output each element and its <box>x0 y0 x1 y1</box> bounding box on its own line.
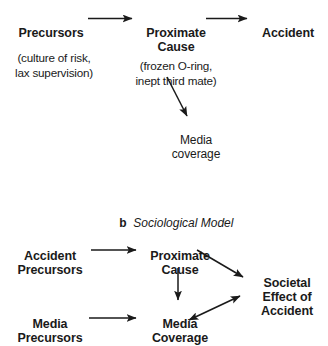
node-accident: Accident <box>250 12 326 40</box>
figure-canvas: Precursors (culture of risk, lax supervi… <box>0 0 328 346</box>
panel-b-caption-text: Sociological Model <box>133 216 233 230</box>
node-media-coverage-a: Media coverage <box>155 121 237 161</box>
node-proximate-cause-b: Proximate Cause <box>140 235 220 277</box>
node-societal-effect-label: Societal Effect of Accident <box>261 276 313 318</box>
node-societal-effect: Societal Effect of Accident <box>248 262 326 318</box>
node-media-coverage-b: Media Coverage <box>138 303 222 345</box>
node-precursors-detail: (culture of risk, lax supervision) <box>0 36 108 81</box>
node-accident-label: Accident <box>262 26 314 40</box>
node-proximate-cause-detail-text: (frozen O-ring, inept third mate) <box>135 59 216 87</box>
node-proximate-cause-detail: (frozen O-ring, inept third mate) <box>118 44 234 89</box>
node-media-precursors: Media Precursors <box>8 303 92 345</box>
node-media-coverage-a-label: Media coverage <box>172 133 221 160</box>
node-media-precursors-label: Media Precursors <box>17 317 82 345</box>
node-accident-precursors: Accident Precursors <box>8 235 92 277</box>
node-proximate-cause-b-label: Proximate Cause <box>150 249 210 277</box>
node-media-coverage-b-label: Media Coverage <box>152 317 208 345</box>
node-accident-precursors-label: Accident Precursors <box>17 249 82 277</box>
panel-b-caption-letter: b <box>119 216 126 230</box>
node-precursors-detail-text: (culture of risk, lax supervision) <box>15 51 93 79</box>
